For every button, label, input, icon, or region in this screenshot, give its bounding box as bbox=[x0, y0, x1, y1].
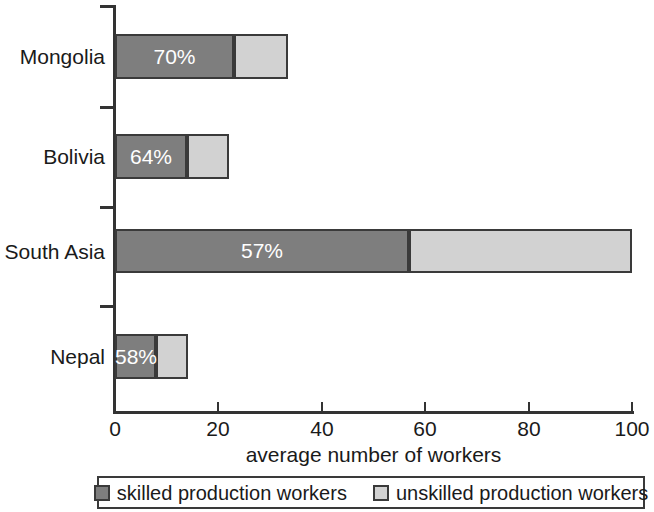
y-axis-tick-2 bbox=[100, 206, 114, 209]
category-label-nepal: Nepal bbox=[0, 346, 105, 368]
legend-label-unskilled: unskilled production workers bbox=[396, 482, 648, 504]
x-axis-label-80: 80 bbox=[499, 417, 559, 441]
x-axis-label-20: 20 bbox=[188, 417, 248, 441]
category-label-mongolia: Mongolia bbox=[0, 46, 105, 68]
x-axis-label-0: 0 bbox=[85, 417, 145, 441]
x-axis-tick-40 bbox=[321, 402, 323, 414]
x-axis-tick-20 bbox=[217, 402, 219, 414]
x-axis-tick-100 bbox=[631, 402, 633, 414]
x-axis-label-60: 60 bbox=[395, 417, 455, 441]
x-axis-tick-60 bbox=[424, 402, 426, 414]
bar-segment-unskilled-south-asia[interactable] bbox=[409, 229, 632, 273]
category-label-south-asia: South Asia bbox=[0, 241, 105, 263]
y-axis-tick-1 bbox=[100, 106, 114, 109]
legend-item-skilled[interactable]: skilled production workers bbox=[94, 482, 347, 504]
bar-value-label-mongolia: 70% bbox=[115, 34, 234, 79]
legend-swatch-skilled-icon bbox=[94, 485, 110, 501]
bar-segment-unskilled-bolivia[interactable] bbox=[187, 134, 229, 179]
x-axis-label-100: 100 bbox=[602, 417, 654, 441]
category-label-bolivia: Bolivia bbox=[0, 146, 105, 168]
x-axis-tick-0 bbox=[114, 402, 116, 414]
legend-swatch-unskilled-icon bbox=[373, 485, 389, 501]
bar-value-label-bolivia: 64% bbox=[115, 134, 187, 179]
y-axis-tick-3 bbox=[100, 305, 114, 308]
x-axis-tick-80 bbox=[528, 402, 530, 414]
legend-label-skilled: skilled production workers bbox=[117, 482, 347, 504]
x-axis-title: average number of workers bbox=[115, 443, 632, 467]
legend-item-unskilled[interactable]: unskilled production workers bbox=[373, 482, 648, 504]
bar-value-label-nepal: 58% bbox=[115, 334, 156, 379]
x-axis-label-40: 40 bbox=[292, 417, 352, 441]
bar-value-label-south-asia: 57% bbox=[115, 229, 409, 273]
x-axis-line bbox=[113, 411, 634, 414]
bar-segment-unskilled-nepal[interactable] bbox=[156, 334, 188, 379]
bar-segment-unskilled-mongolia[interactable] bbox=[234, 34, 288, 79]
chart-legend: skilled production workers unskilled pro… bbox=[97, 476, 645, 509]
